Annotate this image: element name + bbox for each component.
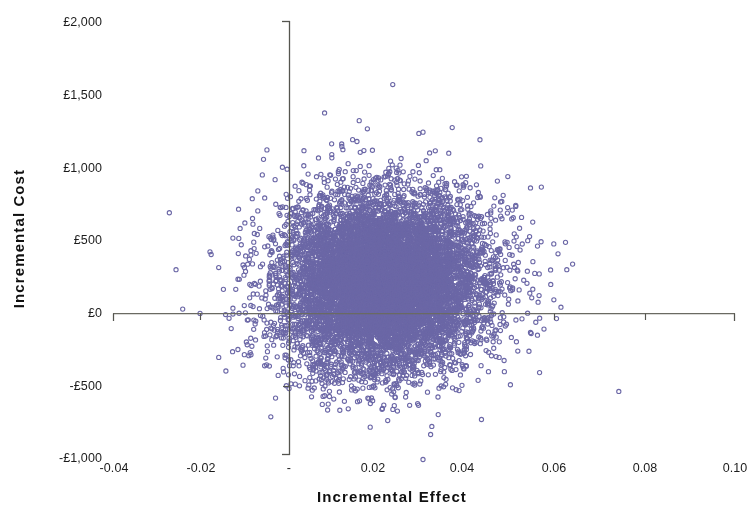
scatter-chart-figure: £2,000 £1,500 £1,000 £500 £0 -£500 -£1,0…: [0, 0, 752, 515]
xtick-label-002: 0.02: [337, 461, 409, 475]
ytick-label-1500: £1,500: [30, 88, 102, 102]
xtick-label-neg002: -0.02: [165, 461, 237, 475]
xtick-label-zero: -: [253, 461, 325, 475]
y-axis-title: Incremental Cost: [10, 129, 27, 349]
xtick-label-neg004: -0.04: [78, 461, 150, 475]
xtick-label-008: 0.08: [609, 461, 681, 475]
ytick-label-2000: £2,000: [30, 15, 102, 29]
ytick-label-neg500: -£500: [30, 379, 102, 393]
xtick-label-010: 0.10: [699, 461, 752, 475]
x-axis-title: Incremental Effect: [272, 488, 512, 505]
ytick-label-500: £500: [30, 233, 102, 247]
xtick-label-006: 0.06: [518, 461, 590, 475]
ytick-label-1000: £1,000: [30, 161, 102, 175]
ytick-label-0: £0: [30, 306, 102, 320]
xtick-label-004: 0.04: [426, 461, 498, 475]
scatter-plot-points: [0, 0, 752, 515]
